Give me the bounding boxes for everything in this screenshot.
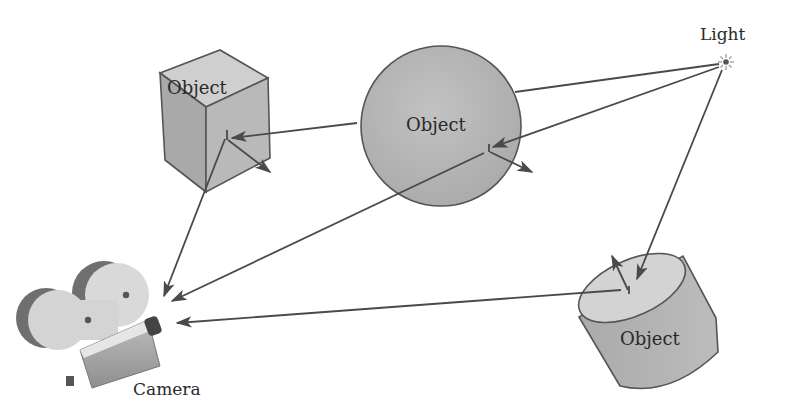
light-source: Light	[700, 24, 746, 70]
cube-object: Object	[160, 50, 270, 192]
movie-camera-icon: Camera	[16, 261, 201, 399]
camera-label: Camera	[133, 379, 201, 399]
ray-light-cylinder	[637, 70, 722, 279]
cube-label: Object	[167, 77, 228, 98]
ray-tracing-diagram: Object Object Object Light	[0, 0, 792, 412]
light-point	[723, 59, 729, 65]
light-label: Light	[700, 24, 746, 44]
sphere-label: Object	[406, 114, 467, 135]
sphere-object: Object	[361, 46, 521, 206]
ray-cylinder-camera	[177, 290, 621, 323]
cylinder-label: Object	[620, 328, 681, 349]
